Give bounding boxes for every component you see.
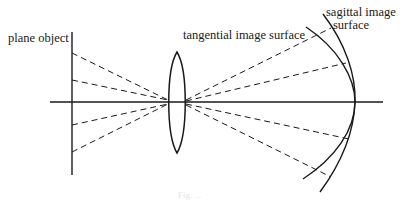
plane-object-label: plane object <box>8 32 69 45</box>
tangential-surface-label: tangential image surface <box>183 29 305 42</box>
sagittal-surface-label-line2: surface <box>333 19 369 32</box>
sagittal-image-surface <box>320 14 355 192</box>
figure-caption: Fig. ... <box>178 190 201 200</box>
tangential-image-surface <box>303 27 355 179</box>
